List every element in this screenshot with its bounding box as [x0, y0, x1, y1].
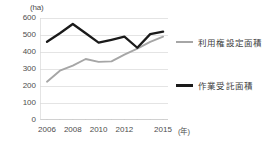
black-line-swatch-icon	[176, 84, 193, 87]
plot-svg	[40, 18, 168, 120]
x-tick-2015: 2015	[151, 126, 175, 134]
y-tick-300: 300	[23, 65, 36, 73]
legend-item-riyouken: 利用権設定面積	[176, 36, 268, 48]
x-tick-2008: 2008	[61, 126, 85, 134]
gray-line-swatch-icon	[176, 41, 193, 43]
y-tick-100: 100	[23, 99, 36, 107]
x-tick-2006: 2006	[35, 126, 59, 134]
y-tick-500: 500	[23, 31, 36, 39]
x-tick-2012: 2012	[112, 126, 136, 134]
chart-legend: 利用権設定面積 作業受託面積	[176, 36, 268, 122]
legend-item-sagyou: 作業受託面積	[176, 79, 268, 91]
plot-area	[40, 18, 168, 120]
y-tick-600: 600	[23, 14, 36, 22]
legend-label-sagyou: 作業受託面積	[198, 79, 253, 91]
y-axis-tick-labels: 0 100 200 300 400 500 600	[0, 0, 38, 145]
series-line-riyouken	[47, 37, 163, 82]
x-axis-unit-label: (年)	[178, 125, 190, 136]
y-tick-0: 0	[32, 116, 36, 124]
x-tick-2010: 2010	[87, 126, 111, 134]
legend-label-riyouken: 利用権設定面積	[198, 36, 262, 48]
line-chart: (ha) (年) 0 100 200 300 400 500 600	[0, 0, 269, 145]
y-tick-400: 400	[23, 48, 36, 56]
y-tick-200: 200	[23, 82, 36, 90]
